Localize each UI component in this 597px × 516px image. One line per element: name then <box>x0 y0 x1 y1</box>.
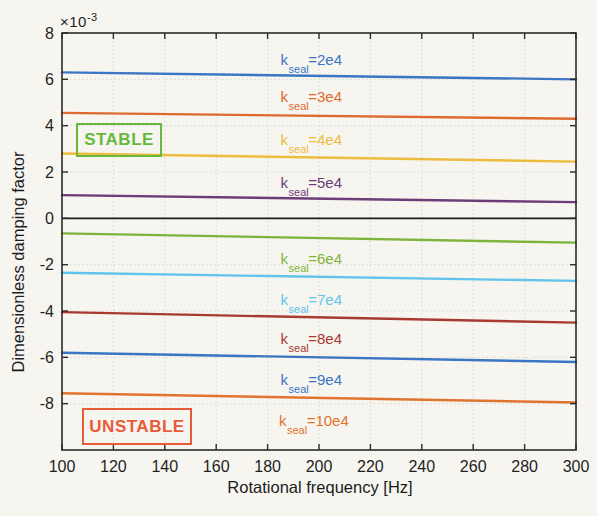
stable-annotation-text: STABLE <box>84 130 154 150</box>
y-tick-label: 4 <box>45 117 54 134</box>
x-tick-label: 240 <box>408 458 435 475</box>
x-tick-label: 280 <box>511 458 538 475</box>
y-tick-label: 6 <box>45 71 54 88</box>
x-tick-label: 140 <box>151 458 178 475</box>
y-multiplier-base: ×10 <box>60 13 87 30</box>
x-tick-label: 300 <box>563 458 590 475</box>
y-tick-label: -8 <box>40 395 54 412</box>
stable-annotation: STABLE <box>76 123 162 157</box>
y-tick-label: -4 <box>40 303 54 320</box>
unstable-annotation: UNSTABLE <box>82 408 192 445</box>
x-axis-label: Rotational frequency [Hz] <box>227 478 412 497</box>
y-tick-label: -6 <box>40 349 54 366</box>
y-tick-label: 2 <box>45 164 54 181</box>
y-tick-label: -2 <box>40 256 54 273</box>
x-tick-label: 200 <box>306 458 333 475</box>
x-tick-label: 260 <box>460 458 487 475</box>
y-tick-label: 8 <box>45 25 54 42</box>
unstable-annotation-text: UNSTABLE <box>89 417 184 437</box>
x-tick-label: 160 <box>203 458 230 475</box>
y-axis-multiplier: ×10-3 <box>60 11 98 30</box>
x-tick-label: 120 <box>100 458 127 475</box>
x-tick-label: 220 <box>357 458 384 475</box>
x-tick-label: 180 <box>254 458 281 475</box>
figure-container: 100120140160180200220240260280300-8-6-4-… <box>0 0 597 516</box>
y-tick-label: 0 <box>45 210 54 227</box>
y-axis-label: Dimensionless damping factor <box>9 151 28 372</box>
x-tick-label: 100 <box>49 458 76 475</box>
y-multiplier-exponent: -3 <box>87 11 98 23</box>
